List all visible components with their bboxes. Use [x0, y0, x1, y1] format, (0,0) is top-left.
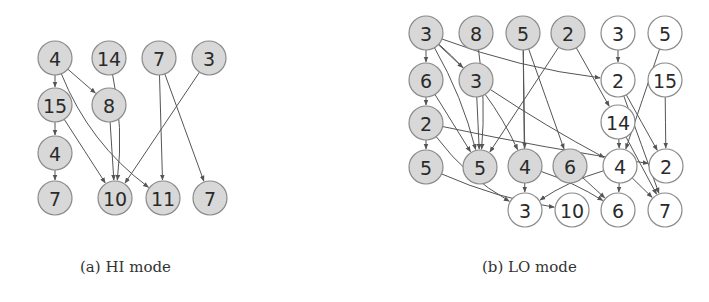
task-node-a8: 7	[38, 181, 72, 215]
task-node-b16: 6	[553, 149, 587, 183]
task-node-a5: 15	[38, 88, 72, 122]
task-node-b21: 6	[601, 193, 635, 227]
task-node-b14: 5	[463, 150, 497, 184]
node-label: 6	[564, 156, 576, 178]
node-label: 14	[97, 48, 121, 70]
node-label: 3	[420, 23, 432, 45]
node-label: 3	[470, 70, 482, 92]
task-node-a4: 3	[192, 41, 226, 75]
node-label: 4	[519, 156, 531, 178]
node-label: 7	[49, 188, 61, 210]
task-node-b8: 3	[459, 63, 493, 97]
edge-a1-a6	[68, 69, 96, 93]
task-node-b11: 2	[409, 106, 443, 140]
node-label: 15	[653, 70, 677, 92]
task-node-b1: 3	[409, 16, 443, 50]
node-label: 15	[43, 95, 67, 117]
node-label: 5	[517, 23, 529, 45]
diagram-canvas: 414731584710117 385235632152145546423106…	[0, 0, 709, 302]
task-node-a3: 7	[142, 41, 176, 75]
node-label: 4	[49, 143, 61, 165]
task-node-a2: 14	[92, 41, 126, 75]
node-label: 2	[562, 23, 574, 45]
task-node-b13: 5	[409, 150, 443, 184]
task-node-b19: 3	[508, 193, 542, 227]
task-node-a10: 11	[146, 181, 180, 215]
node-label: 6	[612, 200, 624, 222]
task-node-b2: 8	[459, 16, 493, 50]
task-node-b10: 15	[648, 63, 682, 97]
task-node-b12: 14	[601, 105, 635, 139]
edge-b1-b14	[434, 48, 475, 150]
node-label: 7	[204, 188, 216, 210]
edge-a3-a11	[165, 74, 204, 181]
node-label: 2	[660, 156, 672, 178]
caption-hi-mode: (a) HI mode	[80, 258, 171, 276]
edge-b8-b14	[477, 97, 479, 149]
task-node-b22: 7	[648, 193, 682, 227]
task-node-b4: 2	[551, 16, 585, 50]
node-label: 8	[470, 23, 482, 45]
edge-a6-a9	[110, 122, 114, 180]
task-node-b3: 5	[506, 16, 540, 50]
node-label: 10	[103, 188, 127, 210]
task-node-a6: 8	[92, 88, 126, 122]
task-node-b7: 6	[409, 63, 443, 97]
node-label: 5	[474, 157, 486, 179]
task-node-b9: 2	[601, 63, 635, 97]
node-label: 5	[420, 157, 432, 179]
node-label: 6	[420, 70, 432, 92]
node-label: 14	[606, 112, 630, 134]
node-label: 2	[420, 113, 432, 135]
node-label: 10	[560, 200, 584, 222]
node-label: 4	[49, 48, 61, 70]
task-node-b6: 5	[648, 16, 682, 50]
node-label: 7	[659, 200, 671, 222]
edge-b3-b16	[529, 49, 564, 149]
task-node-b5: 3	[601, 16, 635, 50]
task-node-a1: 4	[38, 41, 72, 75]
node-label: 8	[103, 95, 115, 117]
lo-mode-graph: 3852356321521455464231067	[409, 16, 683, 227]
task-node-b17: 4	[603, 149, 637, 183]
edge-b10-b18	[665, 97, 666, 148]
task-node-b18: 2	[649, 149, 683, 183]
node-label: 4	[614, 156, 626, 178]
node-label: 11	[151, 188, 175, 210]
node-label: 3	[519, 200, 531, 222]
node-label: 5	[659, 23, 671, 45]
node-label: 3	[612, 23, 624, 45]
node-label: 3	[203, 48, 215, 70]
task-node-b15: 4	[508, 149, 542, 183]
node-label: 2	[612, 70, 624, 92]
task-node-a9: 10	[98, 181, 132, 215]
task-node-a7: 4	[38, 136, 72, 170]
hi-mode-graph: 414731584710117	[38, 41, 227, 215]
task-node-a11: 7	[193, 181, 227, 215]
node-label: 7	[153, 48, 165, 70]
caption-lo-mode: (b) LO mode	[482, 258, 577, 276]
task-node-b20: 10	[555, 193, 589, 227]
